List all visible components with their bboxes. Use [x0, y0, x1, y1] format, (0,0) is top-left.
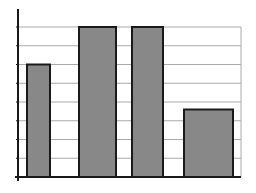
bar-chart	[0, 0, 256, 193]
bar-3	[132, 27, 163, 177]
bar-2	[79, 27, 116, 177]
bar-1	[27, 65, 50, 178]
bar-4	[184, 110, 233, 178]
